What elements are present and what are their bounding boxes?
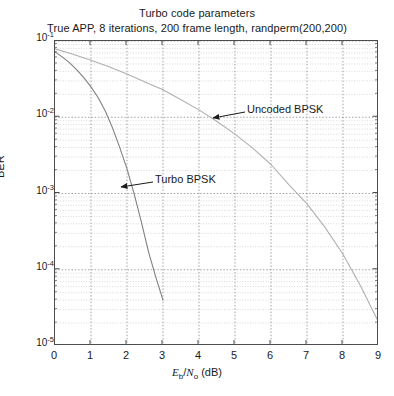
x-tick-label: 9 — [368, 349, 388, 361]
x-axis-label-n: N — [186, 366, 193, 378]
x-tick-label: 0 — [44, 349, 64, 361]
annotation-label-turbo-bpsk: Turbo BPSK — [155, 173, 216, 185]
y-tick-label: 10-5 — [10, 337, 54, 348]
x-axis-label: Eb/No (dB) — [0, 366, 394, 378]
y-tick-label: 10-1 — [10, 32, 54, 43]
x-axis-label-e: E — [172, 366, 179, 378]
x-axis-label-unit: (dB) — [198, 366, 222, 378]
x-tick-label: 1 — [80, 349, 100, 361]
data-curves — [55, 41, 378, 345]
x-tick-label: 6 — [260, 349, 280, 361]
chart-title-block: Turbo code parameters True APP, 8 iterat… — [0, 6, 394, 36]
x-tick-label: 5 — [224, 349, 244, 361]
x-tick-label: 7 — [296, 349, 316, 361]
chart-subtitle: True APP, 8 iterations, 200 frame length… — [0, 21, 394, 36]
y-tick-label: 10-2 — [10, 108, 54, 119]
x-tick-label: 3 — [152, 349, 172, 361]
x-tick-label: 2 — [116, 349, 136, 361]
series-line-turbo-bpsk — [55, 52, 163, 300]
x-tick-label: 4 — [188, 349, 208, 361]
series-line-uncoded-bpsk — [55, 49, 378, 323]
y-tick-label: 10-4 — [10, 261, 54, 272]
plot-area — [54, 40, 378, 345]
chart-title: Turbo code parameters — [0, 6, 394, 21]
y-tick-label: 10-3 — [10, 185, 54, 196]
annotation-label-uncoded-bpsk: Uncoded BPSK — [247, 103, 323, 115]
x-tick-label: 8 — [332, 349, 352, 361]
figure-turbo-code-ber-plot: Turbo code parameters True APP, 8 iterat… — [0, 0, 394, 396]
y-axis-label: BER — [0, 155, 6, 178]
